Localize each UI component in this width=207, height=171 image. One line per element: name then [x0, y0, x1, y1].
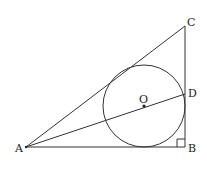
point-a [25, 146, 27, 148]
segment-ca [26, 26, 185, 147]
label-a: A [14, 142, 24, 155]
geometry-diagram: A B C D O [0, 0, 207, 171]
right-angle-marker [177, 139, 185, 147]
label-b: B [188, 142, 196, 155]
label-c: C [187, 16, 195, 29]
label-o: O [139, 93, 148, 106]
label-d: D [188, 87, 197, 100]
